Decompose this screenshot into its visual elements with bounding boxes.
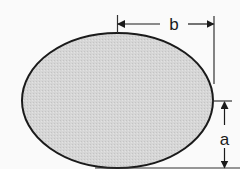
dimension-label-b: b: [169, 15, 178, 34]
dimension-label-a: a: [220, 130, 230, 149]
ellipse-shape: [22, 33, 213, 168]
ellipse-diagram: b a: [0, 0, 240, 169]
